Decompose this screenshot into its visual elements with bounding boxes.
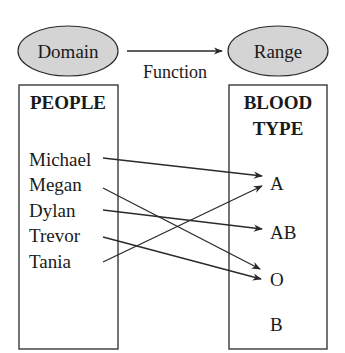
blood-type-heading-line1: BLOOD (244, 93, 313, 112)
mapping-arrow-dylan-ab (103, 210, 262, 229)
range-item-ab: AB (270, 223, 296, 242)
domain-item-dylan: Dylan (29, 201, 75, 220)
domain-item-trevor: Trevor (29, 226, 80, 245)
blood-type-heading-line2: TYPE (253, 119, 304, 138)
mapping-arrow-megan-o (103, 188, 260, 269)
range-item-o: O (270, 270, 284, 289)
domain-label: Domain (37, 42, 98, 61)
domain-item-megan: Megan (29, 175, 82, 194)
function-label: Function (143, 63, 207, 81)
mapping-arrow-michael-a (103, 158, 262, 176)
range-item-b: B (270, 315, 283, 334)
people-heading: PEOPLE (30, 93, 106, 112)
range-label: Range (254, 42, 303, 61)
mapping-arrow-tania-a (103, 186, 262, 262)
domain-item-tania: Tania (29, 252, 71, 271)
range-item-a: A (270, 174, 284, 193)
domain-item-michael: Michael (29, 150, 91, 169)
